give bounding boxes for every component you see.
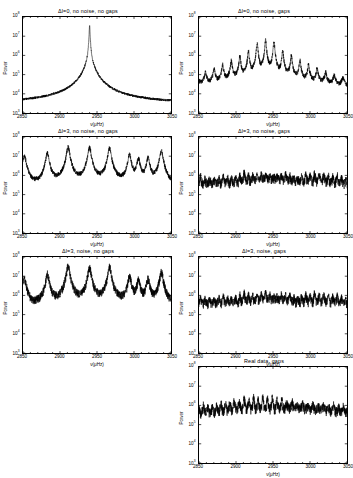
x-tick-label: 2950: [92, 114, 102, 120]
power-spectrum-trace: [23, 145, 171, 181]
y-tick-label: 105: [189, 422, 196, 427]
y-tick-label: 105: [13, 72, 20, 77]
x-tick-label: 2900: [54, 234, 64, 240]
y-tick-label: 105: [13, 312, 20, 317]
x-axis-ticks: 28502900295030003050: [22, 234, 172, 242]
power-spectrum-trace: [199, 394, 347, 419]
y-tick-label: 104: [13, 92, 20, 97]
y-tick-label: 106: [13, 293, 20, 298]
plot-panel-p4: Δl=3, no noise, gapsPower103104105106107…: [176, 128, 352, 248]
plot-panel-p2: Δl=0, no noise, gapsPower103104105106107…: [176, 8, 352, 128]
x-tick-label: 3000: [305, 234, 315, 240]
x-tick-label: 2850: [193, 114, 203, 120]
y-tick-label: 107: [189, 153, 196, 158]
plot-area: [22, 256, 172, 354]
panel-title: Real data, gaps: [176, 358, 352, 365]
x-tick-label: 2950: [268, 234, 278, 240]
y-tick-label: 105: [189, 192, 196, 197]
x-axis-ticks: 28502900295030003050: [198, 114, 348, 122]
y-tick-label: 104: [13, 332, 20, 337]
power-spectrum-trace: [199, 38, 347, 86]
x-tick-label: 2900: [54, 354, 64, 360]
x-tick-label: 3050: [343, 114, 353, 120]
x-axis-ticks: 28502900295030003050: [198, 234, 348, 242]
y-tick-label: 106: [13, 173, 20, 178]
x-tick-label: 2850: [17, 234, 27, 240]
y-tick-label: 105: [189, 312, 196, 317]
x-tick-label: 3000: [305, 464, 315, 470]
power-spectrum-trace: [23, 264, 171, 304]
y-tick-label: 108: [13, 13, 20, 18]
panel-title: Δl=3, no noise, no gaps: [0, 128, 176, 135]
x-tick-label: 2850: [193, 234, 203, 240]
plot-area: [22, 16, 172, 114]
y-tick-label: 107: [189, 273, 196, 278]
panel-title: Δl=3, noise, gaps: [176, 248, 352, 255]
y-axis-ticks: 103104105106107108: [176, 136, 198, 234]
power-spectrum-trace: [199, 290, 347, 309]
x-tick-label: 3050: [343, 464, 353, 470]
x-tick-label: 2900: [230, 114, 240, 120]
y-tick-label: 107: [189, 383, 196, 388]
x-tick-label: 2950: [92, 234, 102, 240]
plot-area: [198, 136, 348, 234]
y-tick-label: 108: [189, 133, 196, 138]
y-tick-label: 104: [13, 212, 20, 217]
y-tick-label: 106: [189, 173, 196, 178]
panel-title: Δl=0, no noise, no gaps: [0, 8, 176, 15]
y-tick-label: 106: [189, 53, 196, 58]
x-tick-label: 3050: [343, 234, 353, 240]
y-tick-label: 107: [13, 273, 20, 278]
y-tick-label: 107: [13, 33, 20, 38]
y-axis-ticks: 103104105106107108: [0, 16, 22, 114]
power-spectrum-trace: [23, 25, 171, 101]
x-tick-label: 2900: [230, 234, 240, 240]
y-axis-ticks: 103104105106107108: [0, 136, 22, 234]
plot-panel-p3: Δl=3, no noise, no gapsPower103104105106…: [0, 128, 176, 248]
y-tick-label: 104: [189, 212, 196, 217]
y-tick-label: 106: [189, 403, 196, 408]
x-tick-label: 3000: [129, 114, 139, 120]
plot-panel-p1: Δl=0, no noise, no gapsPower103104105106…: [0, 8, 176, 128]
y-tick-label: 108: [189, 363, 196, 368]
x-axis-ticks: 28502900295030003050: [198, 464, 348, 472]
x-axis-label: ν(μHz): [22, 362, 172, 368]
x-tick-label: 3000: [129, 354, 139, 360]
plot-area: [198, 366, 348, 464]
y-axis-ticks: 103104105106107108: [176, 366, 198, 464]
x-tick-label: 2850: [193, 464, 203, 470]
x-tick-label: 2950: [268, 464, 278, 470]
y-tick-label: 105: [189, 72, 196, 77]
x-tick-label: 2850: [17, 354, 27, 360]
panel-title: Δl=3, no noise, gaps: [176, 128, 352, 135]
y-tick-label: 108: [13, 133, 20, 138]
x-tick-label: 2900: [230, 464, 240, 470]
y-tick-label: 104: [189, 332, 196, 337]
y-tick-label: 106: [13, 53, 20, 58]
x-tick-label: 2950: [268, 114, 278, 120]
x-axis-ticks: 28502900295030003050: [22, 114, 172, 122]
x-axis-label: ν(μHz): [198, 472, 348, 478]
plot-area: [198, 16, 348, 114]
y-axis-ticks: 103104105106107108: [176, 16, 198, 114]
y-tick-label: 108: [189, 253, 196, 258]
x-tick-label: 3000: [305, 114, 315, 120]
x-tick-label: 2950: [92, 354, 102, 360]
y-tick-label: 105: [13, 192, 20, 197]
plot-panel-p7: Real data, gapsPower10310410510610710828…: [176, 358, 352, 478]
y-tick-label: 108: [189, 13, 196, 18]
panel-title: Δl=0, no noise, gaps: [176, 8, 352, 15]
plot-area: [198, 256, 348, 354]
plot-panel-p6: Δl=3, noise, gapsPower103104105106107108…: [176, 248, 352, 368]
y-tick-label: 108: [13, 253, 20, 258]
power-spectrum-trace: [199, 170, 347, 189]
plot-area: [22, 136, 172, 234]
x-axis-ticks: 28502900295030003050: [22, 354, 172, 362]
plot-panel-p5: Δl=3, noise, no gapsPower103104105106107…: [0, 248, 176, 368]
y-tick-label: 104: [189, 442, 196, 447]
x-tick-label: 2850: [17, 114, 27, 120]
y-tick-label: 107: [189, 33, 196, 38]
y-tick-label: 106: [189, 293, 196, 298]
panel-title: Δl=3, noise, no gaps: [0, 248, 176, 255]
